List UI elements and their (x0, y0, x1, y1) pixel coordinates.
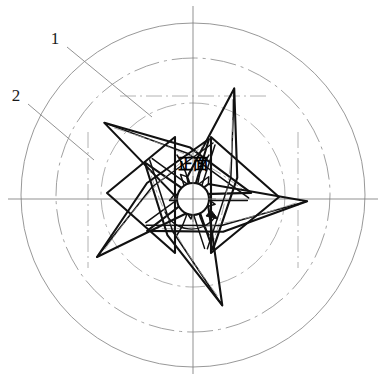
leader-line-1 (67, 47, 152, 117)
callout-leaders (28, 47, 152, 160)
front-face-label: 正面 (178, 155, 208, 173)
callout-label-2: 2 (12, 86, 21, 105)
impeller-front-view-diagram: 1 2 正面 (0, 0, 386, 380)
callout-label-1: 1 (51, 29, 60, 48)
technical-drawing-canvas: 1 2 正面 (0, 0, 386, 380)
